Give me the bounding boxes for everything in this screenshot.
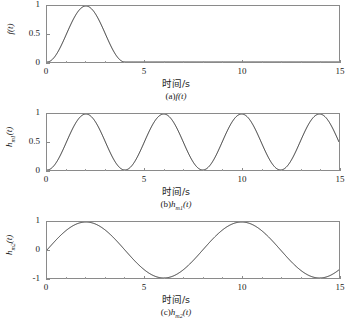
x-minor-tick-mark bbox=[222, 61, 223, 63]
x-minor-tick-mark bbox=[301, 277, 302, 279]
x-minor-tick-mark bbox=[164, 277, 165, 279]
x-axis-title-c: 时间/s bbox=[0, 292, 352, 306]
x-tick-mark bbox=[242, 276, 243, 279]
x-tick-label: 0 bbox=[31, 175, 61, 184]
x-tick-mark bbox=[340, 168, 341, 171]
subplot-c: hm2(t) 10-1 051015 时间/s (c)hm2(t) bbox=[0, 216, 352, 324]
x-minor-tick-mark bbox=[85, 277, 86, 279]
x-tick-mark bbox=[144, 168, 145, 171]
x-tick-label: 10 bbox=[227, 67, 257, 76]
y-tick-label: 1 bbox=[14, 0, 40, 9]
x-tick-mark bbox=[242, 60, 243, 63]
x-tick-mark bbox=[242, 168, 243, 171]
curve-b bbox=[47, 114, 339, 170]
x-tick-mark bbox=[46, 168, 47, 171]
x-minor-tick-mark bbox=[124, 169, 125, 171]
x-minor-tick-mark bbox=[105, 277, 106, 279]
x-tick-label: 15 bbox=[325, 175, 352, 184]
caption-b: (b)hm1(t) bbox=[0, 199, 352, 211]
y-tick-label: 0.5 bbox=[14, 137, 40, 146]
y-tick-label: 1 bbox=[14, 216, 40, 225]
y-tick-mark bbox=[46, 250, 50, 251]
x-axis-title-a: 时间/s bbox=[0, 76, 352, 90]
x-minor-tick-mark bbox=[222, 277, 223, 279]
caption-a: (a)f(t) bbox=[0, 91, 352, 101]
x-minor-tick-mark bbox=[164, 61, 165, 63]
x-tick-label: 0 bbox=[31, 283, 61, 292]
x-minor-tick-mark bbox=[203, 277, 204, 279]
x-minor-tick-mark bbox=[66, 277, 67, 279]
subplot-a: f(t) 10.50 051015 时间/s (a)f(t) bbox=[0, 0, 352, 108]
x-minor-tick-mark bbox=[320, 277, 321, 279]
x-minor-tick-mark bbox=[183, 277, 184, 279]
x-tick-mark bbox=[340, 276, 341, 279]
x-minor-tick-mark bbox=[281, 61, 282, 63]
plot-area-a bbox=[46, 5, 340, 63]
figure-container: f(t) 10.50 051015 时间/s (a)f(t) hm1(t) 10… bbox=[0, 0, 352, 324]
plot-area-b bbox=[46, 113, 340, 171]
x-minor-tick-mark bbox=[105, 61, 106, 63]
x-tick-mark bbox=[340, 60, 341, 63]
y-tick-label: 0.5 bbox=[14, 29, 40, 38]
curve-a bbox=[47, 6, 339, 62]
x-minor-tick-mark bbox=[203, 61, 204, 63]
x-tick-label: 15 bbox=[325, 67, 352, 76]
x-minor-tick-mark bbox=[124, 277, 125, 279]
y-tick-mark bbox=[46, 34, 50, 35]
x-minor-tick-mark bbox=[85, 61, 86, 63]
x-tick-label: 5 bbox=[129, 67, 159, 76]
x-minor-tick-mark bbox=[320, 61, 321, 63]
curve-c bbox=[47, 222, 339, 278]
x-minor-tick-mark bbox=[262, 277, 263, 279]
x-tick-label: 5 bbox=[129, 175, 159, 184]
x-minor-tick-mark bbox=[301, 61, 302, 63]
y-tick-label: 0 bbox=[14, 245, 40, 254]
y-tick-mark bbox=[46, 113, 50, 114]
y-tick-mark bbox=[46, 142, 50, 143]
x-minor-tick-mark bbox=[66, 61, 67, 63]
x-minor-tick-mark bbox=[183, 169, 184, 171]
x-tick-label: 0 bbox=[31, 67, 61, 76]
x-tick-mark bbox=[144, 276, 145, 279]
x-axis-title-b: 时间/s bbox=[0, 184, 352, 198]
y-tick-label: -1 bbox=[14, 274, 40, 283]
plot-area-c bbox=[46, 221, 340, 279]
x-minor-tick-mark bbox=[66, 169, 67, 171]
y-tick-mark bbox=[46, 279, 50, 280]
x-minor-tick-mark bbox=[164, 169, 165, 171]
x-tick-mark bbox=[46, 276, 47, 279]
x-tick-label: 15 bbox=[325, 283, 352, 292]
y-tick-label: 1 bbox=[14, 108, 40, 117]
x-minor-tick-mark bbox=[281, 169, 282, 171]
x-minor-tick-mark bbox=[320, 169, 321, 171]
x-minor-tick-mark bbox=[262, 169, 263, 171]
x-minor-tick-mark bbox=[203, 169, 204, 171]
x-tick-label: 5 bbox=[129, 283, 159, 292]
x-minor-tick-mark bbox=[301, 169, 302, 171]
x-minor-tick-mark bbox=[262, 61, 263, 63]
x-tick-label: 10 bbox=[227, 175, 257, 184]
x-tick-label: 10 bbox=[227, 283, 257, 292]
x-minor-tick-mark bbox=[183, 61, 184, 63]
y-tick-label: 0 bbox=[14, 58, 40, 67]
y-tick-mark bbox=[46, 63, 50, 64]
x-minor-tick-mark bbox=[124, 61, 125, 63]
x-minor-tick-mark bbox=[222, 169, 223, 171]
x-tick-mark bbox=[144, 60, 145, 63]
caption-c: (c)hm2(t) bbox=[0, 307, 352, 319]
y-tick-mark bbox=[46, 171, 50, 172]
subplot-b: hm1(t) 10.50 051015 时间/s (b)hm1(t) bbox=[0, 108, 352, 216]
x-tick-mark bbox=[46, 60, 47, 63]
x-minor-tick-mark bbox=[85, 169, 86, 171]
x-minor-tick-mark bbox=[105, 169, 106, 171]
x-minor-tick-mark bbox=[281, 277, 282, 279]
y-tick-mark bbox=[46, 5, 50, 6]
y-tick-mark bbox=[46, 221, 50, 222]
y-tick-label: 0 bbox=[14, 166, 40, 175]
